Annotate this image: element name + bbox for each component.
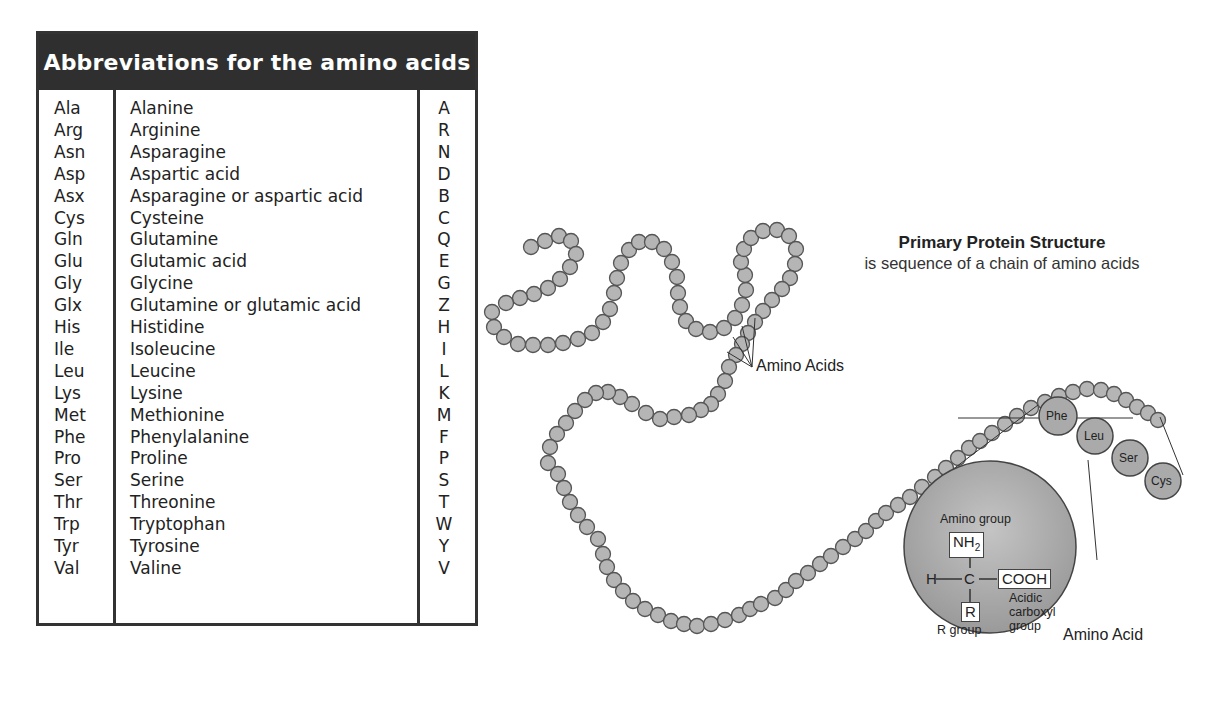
amino-acid-bead bbox=[903, 490, 918, 505]
nh2-text: NH bbox=[953, 533, 975, 550]
amino-acid-bead bbox=[563, 260, 578, 275]
amino-acid-bead bbox=[735, 298, 750, 313]
amino-acid-bead bbox=[1080, 382, 1095, 397]
acidic-label-line3: group bbox=[1009, 619, 1056, 633]
amino-acid-bead bbox=[673, 300, 688, 315]
amino-acid-bead bbox=[1024, 401, 1039, 416]
amino-acid-bead bbox=[541, 338, 556, 353]
amino-acid-bead bbox=[497, 330, 512, 345]
amino-acid-bead bbox=[739, 283, 754, 298]
amino-acid-bead bbox=[610, 271, 625, 286]
amino-acid-bead bbox=[704, 617, 719, 632]
amino-acid-bead bbox=[667, 410, 682, 425]
amino-acid-bead bbox=[653, 412, 668, 427]
hydrogen-atom: H bbox=[926, 570, 937, 587]
amino-acid-bead bbox=[563, 495, 578, 510]
amino-acid-bead bbox=[754, 597, 769, 612]
amino-acid-bead bbox=[718, 613, 733, 628]
amino-acid-bead bbox=[485, 305, 500, 320]
diagram-subtitle: is sequence of a chain of amino acids bbox=[790, 254, 1214, 273]
amino-acid-bead bbox=[541, 281, 556, 296]
amino-acid-bead bbox=[689, 322, 704, 337]
amino-acid-bead bbox=[543, 440, 558, 455]
amino-acid-bead bbox=[527, 287, 542, 302]
amino-acid-bead bbox=[557, 481, 572, 496]
amino-acid-bead bbox=[639, 406, 654, 421]
acidic-carboxyl-group-label: Acidic carboxyl group bbox=[1009, 591, 1056, 633]
amino-acids-label: Amino Acids bbox=[756, 357, 844, 375]
amino-acid-bead bbox=[526, 338, 541, 353]
amino-acid-bead bbox=[703, 325, 718, 340]
residue-label-leu: Leu bbox=[1084, 429, 1104, 443]
cooh-box: COOH bbox=[998, 569, 1051, 589]
alpha-carbon-atom: C bbox=[964, 570, 975, 587]
amino-acid-bead bbox=[571, 332, 586, 347]
r-group-label: R group bbox=[937, 623, 981, 637]
amino-group-label: Amino group bbox=[940, 512, 1011, 526]
amino-acid-bead bbox=[551, 467, 566, 482]
residue-label-phe: Phe bbox=[1046, 409, 1067, 423]
acidic-label-line2: carboxyl bbox=[1009, 605, 1056, 619]
amino-acid-bead bbox=[556, 336, 571, 351]
amino-acid-bead bbox=[671, 286, 686, 301]
amino-acid-bead bbox=[513, 291, 528, 306]
residue-label-cys: Cys bbox=[1151, 474, 1172, 488]
amino-acid-bead bbox=[538, 234, 553, 249]
amino-acid-caption: Amino Acid bbox=[1063, 626, 1143, 644]
nh2-subscript: 2 bbox=[975, 542, 981, 553]
residue-label-ser: Ser bbox=[1119, 451, 1138, 465]
amino-acid-bead bbox=[722, 360, 737, 375]
amino-acid-bead bbox=[756, 224, 771, 239]
amino-acid-bead bbox=[665, 255, 680, 270]
amino-acid-bead bbox=[1066, 385, 1081, 400]
amino-acid-bead bbox=[657, 242, 672, 257]
acidic-label-line1: Acidic bbox=[1009, 591, 1056, 605]
amino-acid-bead bbox=[682, 408, 697, 423]
amino-acid-bead bbox=[670, 270, 685, 285]
amino-acid-bead bbox=[499, 296, 514, 311]
amino-acid-bead bbox=[603, 302, 618, 317]
amino-acid-bead bbox=[524, 240, 539, 255]
amino-acid-bead bbox=[607, 286, 622, 301]
diagram-title-block: Primary Protein Structure is sequence of… bbox=[790, 233, 1214, 273]
amino-acid-bead bbox=[985, 426, 1000, 441]
r-box: R bbox=[961, 602, 980, 622]
amino-acid-bead bbox=[580, 520, 595, 535]
amino-acid-bead bbox=[591, 532, 606, 547]
amino-acid-bead bbox=[690, 619, 705, 634]
amino-acid-bead bbox=[614, 256, 629, 271]
amino-acid-bead bbox=[511, 337, 526, 352]
diagram-title: Primary Protein Structure bbox=[790, 233, 1214, 253]
nh2-box: NH2 bbox=[949, 532, 984, 558]
